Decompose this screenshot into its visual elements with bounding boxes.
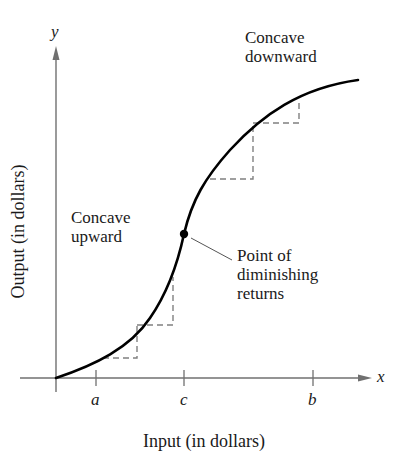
y-axis-title: Output (in dollars): [9, 152, 28, 312]
y-axis-arrow-icon: [53, 46, 60, 60]
tick-label-b: b: [308, 390, 317, 409]
concave-upward-line2: upward: [71, 227, 130, 246]
x-axis-title: Input (in dollars): [143, 432, 265, 451]
dashed-step-4: [253, 102, 299, 123]
point-line3: returns: [237, 284, 318, 303]
leader-line: [191, 238, 232, 260]
concave-upward-line1: Concave: [71, 208, 130, 227]
tick-label-c: c: [180, 390, 188, 409]
point-of-diminishing-returns-label: Point of diminishing returns: [237, 246, 318, 303]
inflection-point: [180, 230, 188, 238]
dashed-step-1: [103, 325, 137, 358]
diagram-canvas: [0, 0, 403, 466]
concave-upward-label: Concave upward: [71, 208, 130, 246]
tick-label-a: a: [91, 390, 100, 409]
y-axis-label: y: [51, 22, 59, 41]
concave-downward-line2: downward: [245, 47, 317, 66]
point-line1: Point of: [237, 246, 318, 265]
dashed-step-3: [210, 123, 253, 179]
point-line2: diminishing: [237, 265, 318, 284]
concave-downward-line1: Concave: [245, 28, 317, 47]
x-axis-label: x: [377, 367, 385, 386]
x-axis-arrow-icon: [358, 375, 372, 382]
concave-downward-label: Concave downward: [245, 28, 317, 66]
